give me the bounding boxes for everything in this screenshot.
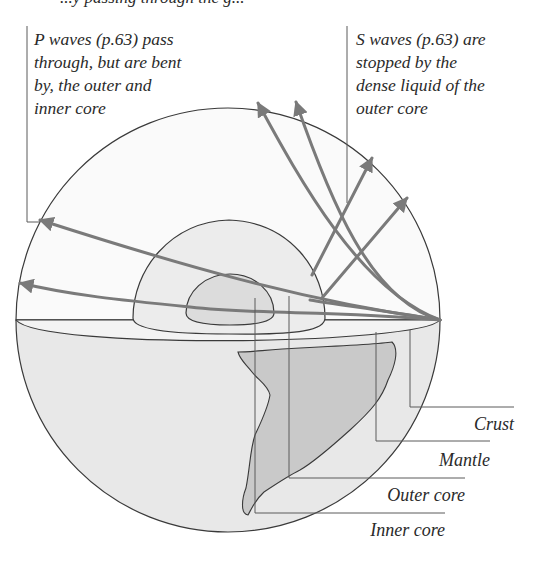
caption-line: by, the outer and xyxy=(34,74,224,97)
caption-line: inner core xyxy=(34,97,224,120)
label-mantle: Mantle xyxy=(390,450,490,470)
caption-line: through, but are bent xyxy=(34,51,224,74)
caption-line: dense liquid of the xyxy=(356,74,536,97)
caption-line: S waves (p.63) are xyxy=(356,28,536,51)
p-waves-caption: P waves (p.63) pass through, but are ben… xyxy=(34,28,224,120)
caption-line: stopped by the xyxy=(356,51,536,74)
s-waves-caption: S waves (p.63) are stopped by the dense … xyxy=(356,28,536,120)
label-crust: Crust xyxy=(420,414,514,434)
caption-line: P waves (p.63) pass xyxy=(34,28,224,51)
label-inner-core: Inner core xyxy=(335,520,445,540)
caption-line: outer core xyxy=(356,97,536,120)
label-outer-core: Outer core xyxy=(355,485,465,505)
